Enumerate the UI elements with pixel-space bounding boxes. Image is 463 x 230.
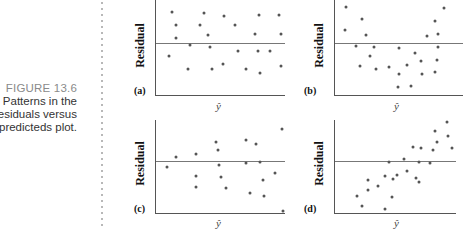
data-point <box>397 86 400 89</box>
data-point <box>421 73 424 76</box>
data-point <box>398 73 401 76</box>
panel-label: (d) <box>304 203 316 214</box>
data-point <box>361 205 364 208</box>
caption-line-1: Patterns in the <box>0 95 77 108</box>
data-point <box>437 33 440 36</box>
data-point <box>215 141 218 144</box>
panel-label: (c) <box>134 203 145 214</box>
data-point <box>436 59 439 62</box>
data-point <box>375 68 378 71</box>
data-point <box>434 130 437 133</box>
scatter-plot <box>334 0 463 96</box>
zero-line <box>156 43 285 44</box>
x-axis-label: ŷ <box>216 100 221 112</box>
data-point <box>187 68 190 71</box>
data-point <box>415 177 418 180</box>
data-point <box>403 158 406 161</box>
x-axis-label: ŷ <box>394 217 399 229</box>
data-point <box>367 179 370 182</box>
data-point <box>365 34 368 37</box>
data-point <box>255 143 258 146</box>
data-point <box>398 47 401 50</box>
data-point <box>222 63 225 66</box>
data-point <box>280 33 283 36</box>
data-point <box>345 6 348 9</box>
zero-line <box>335 161 456 162</box>
data-point <box>263 195 266 198</box>
data-point <box>406 170 409 173</box>
data-point <box>195 153 198 156</box>
data-point <box>392 178 395 181</box>
data-point <box>384 208 387 211</box>
y-axis-label: Residual <box>133 23 148 68</box>
data-point <box>218 164 221 167</box>
data-point <box>388 161 391 164</box>
data-point <box>356 195 359 198</box>
data-point <box>262 179 265 182</box>
data-point <box>447 135 450 138</box>
data-point <box>225 187 228 190</box>
data-point <box>434 20 437 23</box>
data-point <box>207 34 210 37</box>
data-point <box>199 24 202 27</box>
data-point <box>171 11 174 14</box>
panel-label: (a) <box>134 85 146 96</box>
panel-label: (b) <box>304 85 316 96</box>
data-point <box>406 64 409 67</box>
data-point <box>420 60 423 63</box>
caption-line-2: residuals versus <box>0 108 77 121</box>
scatter-plot <box>155 120 285 214</box>
data-point <box>211 68 214 71</box>
data-point <box>168 55 171 58</box>
data-point <box>359 65 362 68</box>
data-point <box>367 189 370 192</box>
x-axis-label: ŷ <box>394 100 399 112</box>
x-axis-label: ŷ <box>216 217 221 229</box>
data-point <box>344 29 347 32</box>
data-point <box>269 50 272 53</box>
data-point <box>166 166 169 169</box>
data-point <box>175 24 178 27</box>
data-point <box>278 14 281 17</box>
data-point <box>245 139 248 142</box>
data-point <box>281 128 284 131</box>
data-point <box>274 172 277 175</box>
data-point <box>429 162 432 165</box>
scatter-plot <box>334 120 456 214</box>
margin-divider <box>101 0 103 230</box>
data-point <box>420 147 423 150</box>
data-point <box>451 147 454 150</box>
data-point <box>410 85 413 88</box>
data-point <box>436 141 439 144</box>
zero-line <box>156 161 285 162</box>
figure-caption: FIGURE 13.6 Patterns in the residuals ve… <box>0 82 77 134</box>
data-point <box>217 149 220 152</box>
data-point <box>259 72 262 75</box>
data-point <box>245 162 248 165</box>
caption-line-3: predicteds plot. <box>0 121 77 134</box>
data-point <box>223 15 226 18</box>
data-point <box>355 45 358 48</box>
data-point <box>258 14 261 17</box>
data-point <box>257 50 260 53</box>
data-point <box>418 161 421 164</box>
data-point <box>280 65 283 68</box>
data-point <box>254 33 257 36</box>
data-point <box>195 175 198 178</box>
data-point <box>412 146 415 149</box>
data-point <box>220 176 223 179</box>
data-point <box>259 161 262 164</box>
data-point <box>396 174 399 177</box>
data-point <box>437 46 440 49</box>
data-point <box>189 44 192 47</box>
data-point <box>237 50 240 53</box>
data-point <box>432 149 435 152</box>
y-axis-label: Residual <box>312 141 327 186</box>
data-point <box>384 175 387 178</box>
data-point <box>418 181 421 184</box>
data-point <box>245 68 248 71</box>
data-point <box>369 55 372 58</box>
data-point <box>175 156 178 159</box>
data-point <box>388 66 391 69</box>
y-axis-label: Residual <box>133 141 148 186</box>
